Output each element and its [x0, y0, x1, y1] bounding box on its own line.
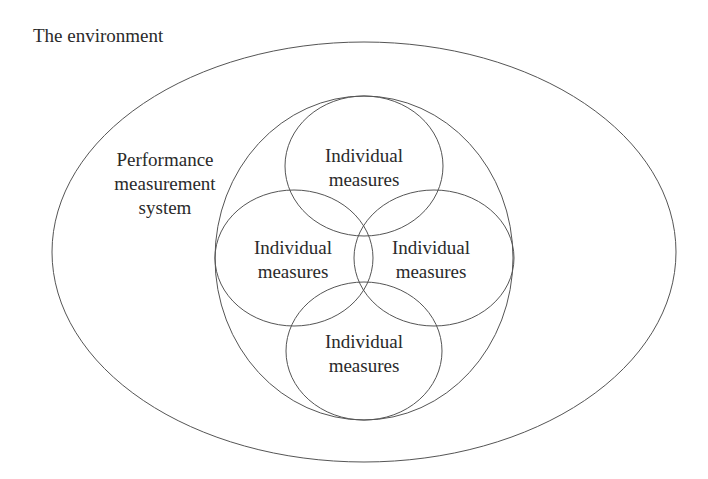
- measure-label-line: measures: [304, 354, 424, 378]
- measure-label-right: Individual measures: [371, 236, 491, 284]
- measure-label-left: Individual measures: [233, 236, 353, 284]
- system-label-line: system: [100, 196, 230, 220]
- measure-label-bottom: Individual measures: [304, 330, 424, 378]
- measure-label-line: measures: [233, 260, 353, 284]
- measure-label-line: Individual: [304, 144, 424, 168]
- system-label-line: Performance: [100, 148, 230, 172]
- system-label: Performance measurement system: [100, 148, 230, 220]
- system-label-line: measurement: [100, 172, 230, 196]
- measure-label-line: measures: [304, 168, 424, 192]
- environment-ellipse: [52, 42, 676, 462]
- environment-label: The environment: [33, 24, 163, 48]
- measure-label-line: Individual: [304, 330, 424, 354]
- measure-label-line: measures: [371, 260, 491, 284]
- measure-label-top: Individual measures: [304, 144, 424, 192]
- measure-label-line: Individual: [371, 236, 491, 260]
- measure-label-line: Individual: [233, 236, 353, 260]
- diagram-shapes: [0, 0, 708, 479]
